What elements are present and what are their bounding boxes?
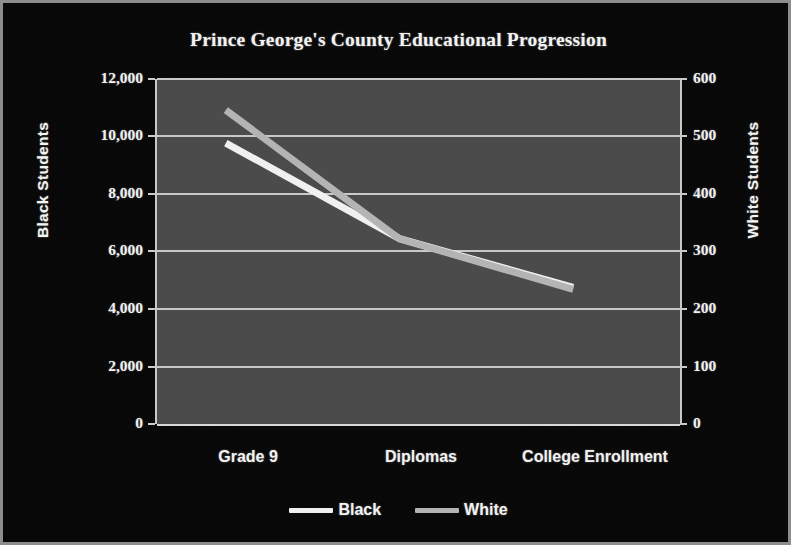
y-label-right-100: 100 — [693, 357, 749, 375]
chart-legend: Black White — [3, 501, 791, 519]
y-label-right-200: 200 — [693, 299, 749, 317]
y-label-right-300: 300 — [693, 241, 749, 259]
y-label-right-500: 500 — [693, 126, 749, 144]
y-axis-left-title: Black Students — [34, 80, 52, 280]
y-label-right-400: 400 — [693, 184, 749, 202]
y-label-left-6000: 6,000 — [55, 241, 143, 259]
gridline-4000 — [157, 308, 680, 310]
y-axis-right-title: White Students — [744, 80, 762, 280]
x-label-college-enrollment: College Enrollment — [495, 448, 695, 466]
tick-right-0 — [680, 423, 687, 425]
gridline-6000 — [157, 250, 680, 252]
y-label-left-8000: 8,000 — [55, 184, 143, 202]
legend-label-black: Black — [338, 501, 381, 519]
tick-left-8000 — [148, 193, 155, 195]
x-label-diplomas: Diplomas — [333, 448, 509, 466]
y-label-left-2000: 2,000 — [55, 357, 143, 375]
axis-line-x — [157, 424, 680, 426]
plot-area — [155, 79, 682, 424]
tick-left-6000 — [148, 250, 155, 252]
legend-item-black: Black — [289, 501, 381, 519]
tick-left-2000 — [148, 366, 155, 368]
tick-right-500 — [680, 135, 687, 137]
y-label-left-0: 0 — [55, 414, 143, 432]
legend-swatch-black — [289, 508, 333, 513]
y-label-left-12000: 12,000 — [55, 69, 143, 87]
gridline-10000 — [157, 135, 680, 137]
tick-left-12000 — [148, 78, 155, 80]
y-axis-left-labels: 12,000 10,000 8,000 6,000 4,000 2,000 0 — [51, 3, 143, 348]
tick-right-200 — [680, 308, 687, 310]
tick-right-300 — [680, 250, 687, 252]
legend-item-white: White — [415, 501, 508, 519]
tick-left-4000 — [148, 308, 155, 310]
chart-figure: Prince George's County Educational Progr… — [0, 0, 791, 545]
gridline-8000 — [157, 193, 680, 195]
y-label-right-600: 600 — [693, 69, 749, 87]
tick-right-100 — [680, 366, 687, 368]
tick-left-0 — [148, 423, 155, 425]
y-label-left-4000: 4,000 — [55, 299, 143, 317]
tick-left-10000 — [148, 135, 155, 137]
gridline-12000 — [157, 78, 680, 80]
legend-swatch-white — [415, 508, 459, 513]
y-label-left-10000: 10,000 — [55, 126, 143, 144]
legend-label-white: White — [464, 501, 508, 519]
gridline-2000 — [157, 366, 680, 368]
tick-right-400 — [680, 193, 687, 195]
x-label-grade-9: Grade 9 — [160, 448, 336, 466]
tick-right-600 — [680, 78, 687, 80]
y-label-right-0: 0 — [693, 414, 749, 432]
